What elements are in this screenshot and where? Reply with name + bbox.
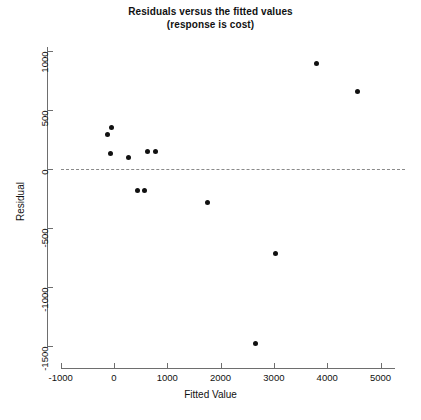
data-point — [355, 89, 360, 94]
x-tick-label-1000: 1000 — [137, 372, 197, 384]
chart-subtitle: (response is cost) — [0, 18, 421, 31]
x-tick-label-4000: 4000 — [297, 372, 357, 384]
chart-title: Residuals versus the fitted values — [0, 5, 421, 18]
y-tick-label--500: -500 — [39, 228, 50, 272]
data-point — [109, 125, 114, 130]
data-point — [314, 61, 319, 66]
x-tick-label-0: 0 — [84, 372, 144, 384]
y-tick-label-0: 0 — [39, 169, 50, 213]
data-point — [126, 155, 131, 160]
zero-reference-line — [61, 169, 405, 170]
y-tick-label--1000: -1000 — [39, 287, 50, 331]
x-axis-line — [61, 368, 395, 369]
y-axis-title: Residual — [15, 172, 26, 232]
x-tick-label-2000: 2000 — [191, 372, 251, 384]
data-point — [108, 151, 113, 156]
chart-title-block: Residuals versus the fitted values (resp… — [0, 5, 421, 31]
data-point — [205, 200, 210, 205]
plot-area — [55, 40, 405, 365]
data-point — [135, 188, 140, 193]
x-tick-label-5000: 5000 — [351, 372, 411, 384]
x-axis-title: Fitted Value — [0, 389, 421, 400]
data-point — [273, 251, 278, 256]
data-point — [145, 149, 150, 154]
y-tick-label--1500: -1500 — [39, 346, 50, 390]
y-tick-label-500: 500 — [39, 110, 50, 154]
y-tick-label-1000: 1000 — [39, 51, 50, 95]
data-point — [153, 149, 158, 154]
residual-scatter-plot: Residuals versus the fitted values (resp… — [0, 0, 421, 420]
data-point — [105, 132, 110, 137]
data-point — [253, 341, 258, 346]
x-tick-label-3000: 3000 — [244, 372, 304, 384]
data-point — [142, 188, 147, 193]
